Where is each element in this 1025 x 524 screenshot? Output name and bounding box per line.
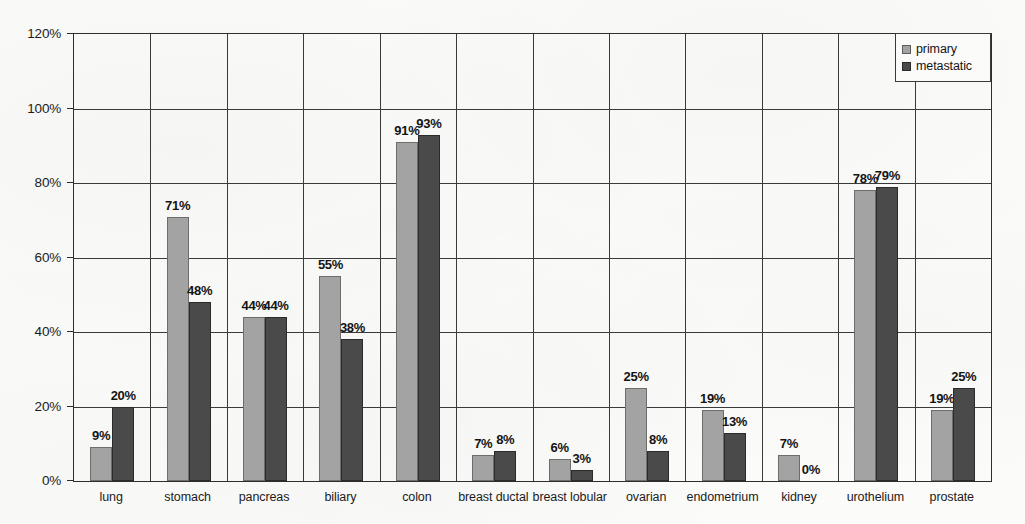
category-divider: [762, 34, 763, 481]
bar-value-label: 3%: [573, 451, 591, 466]
category-divider: [303, 34, 304, 481]
bar-value-label: 79%: [875, 168, 900, 183]
y-axis-tick-label: 60%: [0, 249, 61, 264]
bar-value-label: 13%: [722, 414, 747, 429]
bar-primary-stomach[interactable]: [167, 217, 189, 481]
bar-value-label: 8%: [649, 432, 667, 447]
bar-metastatic-pancreas[interactable]: [265, 317, 287, 481]
x-axis-tick-label: stomach: [164, 490, 211, 504]
y-axis-tick-label: 80%: [0, 175, 61, 190]
bar-metastatic-ovarian[interactable]: [647, 451, 669, 481]
category-divider: [227, 34, 228, 481]
x-axis-tick-label: colon: [402, 490, 431, 504]
legend-swatch-primary-icon: [902, 45, 911, 54]
x-axis-tick-label: endometrium: [687, 490, 759, 504]
category-divider: [838, 34, 839, 481]
bar-chart-figure: 0%20%40%60%80%100%120% 9%20%71%48%44%44%…: [0, 0, 1025, 524]
bar-metastatic-lung[interactable]: [112, 407, 134, 482]
category-divider: [915, 34, 916, 481]
bar-metastatic-stomach[interactable]: [189, 302, 211, 481]
x-axis: lungstomachpancreasbiliarycolonbreast du…: [73, 484, 992, 518]
legend: primary metastatic: [895, 33, 991, 82]
bar-value-label: 93%: [416, 116, 441, 131]
category-divider: [533, 34, 534, 481]
y-axis-tick-label: 40%: [0, 324, 61, 339]
bar-value-label: 9%: [92, 428, 110, 443]
bar-value-label: 8%: [496, 432, 514, 447]
bar-value-label: 19%: [929, 391, 954, 406]
category-divider: [685, 34, 686, 481]
bar-primary-biliary[interactable]: [319, 276, 341, 481]
bar-primary-urothelium[interactable]: [854, 190, 876, 481]
bar-primary-ovarian[interactable]: [625, 388, 647, 481]
plot-area: 9%20%71%48%44%44%55%38%91%93%7%8%6%3%25%…: [73, 33, 992, 482]
bar-primary-endometrium[interactable]: [702, 410, 724, 481]
bar-value-label: 7%: [474, 436, 492, 451]
category-divider: [456, 34, 457, 481]
x-axis-tick-label: breast lobular: [533, 490, 607, 504]
x-axis-tick-label: biliary: [324, 490, 356, 504]
bar-metastatic-endometrium[interactable]: [724, 433, 746, 481]
legend-label-metastatic: metastatic: [916, 59, 972, 73]
category-divider: [609, 34, 610, 481]
bar-value-label: 71%: [165, 198, 190, 213]
x-axis-tick-label: lung: [100, 490, 123, 504]
bar-metastatic-prostate[interactable]: [953, 388, 975, 481]
x-axis-tick-label: ovarian: [626, 490, 666, 504]
x-axis-tick-label: urothelium: [847, 490, 904, 504]
bar-primary-colon[interactable]: [396, 142, 418, 481]
bar-value-label: 0%: [802, 462, 820, 477]
bar-value-label: 6%: [551, 440, 569, 455]
legend-item-primary: primary: [902, 42, 986, 56]
bar-primary-breast-ductal[interactable]: [472, 455, 494, 481]
bar-primary-breast-lobular[interactable]: [549, 459, 571, 481]
bar-value-label: 44%: [263, 298, 288, 313]
bar-primary-prostate[interactable]: [931, 410, 953, 481]
bar-primary-pancreas[interactable]: [243, 317, 265, 481]
bar-metastatic-biliary[interactable]: [341, 339, 363, 481]
legend-swatch-metastatic-icon: [902, 62, 911, 71]
legend-item-metastatic: metastatic: [902, 59, 986, 73]
bar-value-label: 38%: [340, 320, 365, 335]
category-divider: [150, 34, 151, 481]
bar-value-label: 25%: [624, 369, 649, 384]
bar-value-label: 25%: [951, 369, 976, 384]
x-axis-tick-label: pancreas: [239, 490, 290, 504]
bar-value-label: 19%: [700, 391, 725, 406]
x-axis-tick-label: kidney: [781, 490, 817, 504]
y-axis-tick-label: 20%: [0, 398, 61, 413]
y-axis-tick-label: 0%: [0, 473, 61, 488]
bar-value-label: 48%: [187, 283, 212, 298]
x-axis-tick-label: prostate: [930, 490, 974, 504]
x-axis-tick-label: breast ductal: [458, 490, 528, 504]
bar-primary-lung[interactable]: [90, 447, 112, 481]
bar-metastatic-colon[interactable]: [418, 135, 440, 481]
bar-value-label: 20%: [111, 388, 136, 403]
bar-metastatic-breast-ductal[interactable]: [494, 451, 516, 481]
y-axis: 0%20%40%60%80%100%120%: [0, 33, 73, 482]
bar-primary-kidney[interactable]: [778, 455, 800, 481]
bar-metastatic-urothelium[interactable]: [876, 187, 898, 481]
bar-metastatic-breast-lobular[interactable]: [571, 470, 593, 481]
y-axis-tick-label: 100%: [0, 100, 61, 115]
category-divider: [380, 34, 381, 481]
legend-label-primary: primary: [916, 42, 957, 56]
y-axis-tick-label: 120%: [0, 26, 61, 41]
bar-value-label: 7%: [780, 436, 798, 451]
bar-value-label: 55%: [318, 257, 343, 272]
